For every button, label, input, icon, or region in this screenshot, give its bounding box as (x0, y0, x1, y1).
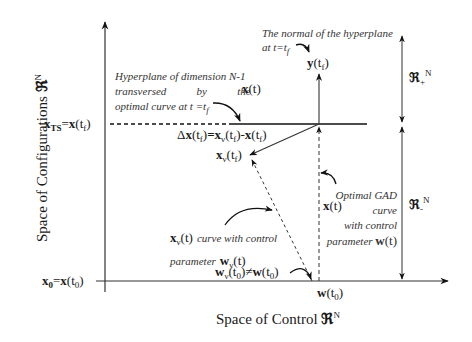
w-t0-label: w(t0) (317, 286, 343, 302)
opt-line4: parameter (327, 235, 373, 247)
ts-sub: TS (51, 123, 62, 133)
nu-sub: ν (223, 154, 227, 164)
sup-n: N (333, 310, 340, 320)
zero-sub: 0 (75, 280, 80, 290)
w-sym: w (252, 264, 261, 279)
w-sym: w (317, 285, 326, 300)
x-sym: x (245, 127, 252, 142)
xts-label: xTS=x(tf) (44, 117, 91, 133)
eq: = (62, 116, 69, 131)
f-sub: f (206, 105, 209, 115)
x-sym: x (69, 116, 76, 131)
real-symbol: ℜ (409, 197, 420, 212)
wv-pointer (290, 269, 311, 279)
f-sub: f (233, 134, 236, 144)
real-symbol: ℜ (321, 311, 333, 327)
f-sub: f (83, 123, 86, 133)
y-axis-label: Space of Configurations ℜN (34, 58, 50, 258)
eq: = (207, 127, 214, 142)
t: t (389, 233, 393, 248)
xv-pointer (225, 208, 272, 225)
hyp-word: by (197, 84, 207, 99)
real-symbol: ℜ (409, 70, 420, 85)
opt-line3: with control (321, 218, 397, 233)
t: t (253, 81, 257, 96)
x-axis-label: Space of Control ℜN (216, 311, 340, 327)
sup-n: N (423, 195, 430, 205)
w-sym: w (215, 264, 224, 279)
normal-annotation: The normal of the hyperplane at t=tf (262, 26, 393, 58)
f-sub: f (259, 134, 262, 144)
f-sub: f (321, 62, 324, 72)
optimal-pointer (321, 173, 336, 184)
nu-sub: ν (224, 271, 228, 281)
zero-sub: 0 (270, 271, 275, 281)
sup-n: N (33, 74, 43, 81)
nu-sub: ν (221, 134, 225, 144)
norm-line2: at t=t (262, 41, 287, 53)
w-sym: w (375, 233, 384, 248)
zero-sub: 0 (334, 292, 339, 302)
x-sym: x (60, 273, 67, 288)
x-axis-text: Space of Control (216, 311, 318, 327)
f-sub: f (200, 134, 203, 144)
plus-sub: + (420, 77, 425, 87)
delta-x-label: Δx(tf)=xν(tf)-x(tf) (177, 128, 267, 144)
norm-line1: The normal of the hyperplane (262, 26, 393, 40)
minus-sub: - (420, 204, 423, 214)
sup-n: N (425, 68, 432, 78)
x0-label: x0=x(t0) (42, 274, 84, 290)
diagram-canvas (0, 0, 472, 342)
hyperplane-x-label: x(t) (242, 82, 261, 95)
zero-sub: 0 (236, 271, 241, 281)
wv-neq-label: wν(t0)≠w(t0) (215, 265, 279, 281)
f-sub: f (235, 154, 238, 164)
f-sub: f (287, 46, 290, 56)
hyp-word: transversed (115, 84, 166, 99)
x-sym: x (185, 127, 192, 142)
real-symbol: ℜ (34, 80, 50, 92)
optimal-x-label: x(t) (323, 199, 342, 212)
xv-line1: curve with control (197, 232, 277, 244)
xv-line2: parameter (170, 255, 216, 267)
x-sym: x (242, 81, 249, 96)
xv-tf-label: xν(tf) (216, 148, 242, 164)
x-sym: x (323, 198, 330, 213)
y-tf-label: y(tf) (307, 56, 329, 72)
r-minus-label: ℜ-N (409, 196, 430, 214)
r-plus-label: ℜ+N (409, 69, 432, 87)
t: t (185, 230, 189, 245)
hyp-line3: optimal curve at t =t (115, 100, 206, 112)
t: t (334, 198, 338, 213)
